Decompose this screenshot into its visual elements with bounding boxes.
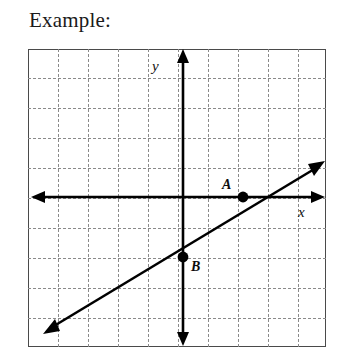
plotted-line-arrow-start: [43, 319, 60, 334]
plotted-line-arrow-end: [308, 161, 325, 176]
axes-and-line-overlay: [28, 49, 326, 347]
x-axis-arrow-right: [311, 191, 325, 203]
x-axis-label: x: [298, 204, 305, 221]
coordinate-graph: y x A B: [28, 49, 326, 347]
page-title: Example:: [29, 8, 111, 32]
data-point-a: [238, 192, 249, 203]
point-label-a: A: [222, 177, 231, 193]
y-axis-arrow-down: [177, 332, 189, 346]
data-point-b: [178, 252, 189, 263]
point-label-b: B: [191, 259, 200, 275]
figure-root: Example:: [0, 0, 344, 355]
x-axis: [31, 191, 325, 203]
y-axis-arrow-up: [177, 49, 189, 63]
y-axis-label: y: [152, 58, 159, 75]
x-axis-arrow-left: [31, 191, 45, 203]
